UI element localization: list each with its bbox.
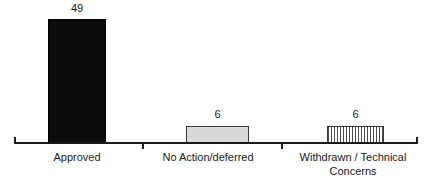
value-label-no-action-deferred: 6 xyxy=(186,108,249,121)
x-axis-tick-labels: Approved No Action/deferred Withdrawn / … xyxy=(0,150,426,187)
x-tick-label-withdrawn-line2: Concerns xyxy=(285,164,421,178)
x-tick-label-approved: Approved xyxy=(27,150,127,164)
x-axis-tick-1 xyxy=(142,144,144,149)
plot-area: 49 6 6 xyxy=(0,0,426,144)
x-axis-right-cap xyxy=(416,137,418,142)
x-axis xyxy=(14,142,418,144)
x-tick-label-withdrawn-line1: Withdrawn / Technical xyxy=(300,151,407,163)
x-axis-tick-2 xyxy=(281,144,283,149)
value-label-approved: 49 xyxy=(48,2,106,15)
bar-chart: 49 6 6 Approved No Action/deferred Withd… xyxy=(0,0,426,187)
x-tick-label-no-action-deferred: No Action/deferred xyxy=(146,150,270,164)
x-axis-left-cap xyxy=(14,137,16,142)
bar-approved xyxy=(48,19,106,144)
x-tick-label-withdrawn-technical-concerns: Withdrawn / Technical Concerns xyxy=(285,150,421,178)
value-label-withdrawn-technical-concerns: 6 xyxy=(327,108,384,121)
